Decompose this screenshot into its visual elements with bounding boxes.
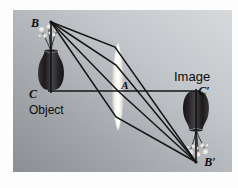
label-b-prime: B′ <box>203 155 215 169</box>
label-image: Image <box>174 69 210 84</box>
point-b-prime-marker <box>194 160 197 163</box>
point-b-marker <box>49 20 52 23</box>
label-object: Object <box>29 103 64 117</box>
label-a: A <box>120 79 128 91</box>
ray-diagram-canvas: B C Object A Image C′ B′ <box>0 0 238 188</box>
label-c: C <box>29 87 38 101</box>
label-b: B <box>30 16 39 30</box>
optics-ray-diagram-figure: B C Object A Image C′ B′ <box>0 0 238 188</box>
label-c-prime: C′ <box>198 84 209 98</box>
